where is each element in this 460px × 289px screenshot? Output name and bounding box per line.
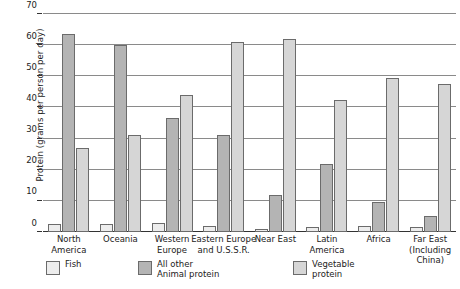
bar (203, 226, 216, 232)
bar (217, 135, 230, 232)
bar-group (301, 14, 353, 232)
y-tick-mark-70 (37, 13, 42, 14)
protein-sources-bar-chart: Protein (grams per person per day) 01020… (0, 0, 460, 289)
legend-label: Vegetable protein (312, 260, 355, 279)
bar-group (353, 14, 405, 232)
bar (100, 224, 113, 232)
legend-swatch-animal (138, 261, 152, 275)
y-tick-mark-10 (37, 200, 42, 201)
bar (424, 216, 437, 232)
chart-legend: FishAll other Animal proteinVegetable pr… (43, 260, 456, 288)
bar (114, 45, 127, 232)
bar (283, 39, 296, 232)
y-tick-label-20: 20 (26, 155, 37, 165)
y-tick-label-0: 0 (32, 218, 37, 228)
x-axis-label-line: and U.S.S.R. (187, 245, 261, 256)
bar (48, 224, 61, 232)
y-tick-mark-60 (37, 44, 42, 45)
x-axis-label-line: (Including (393, 245, 460, 256)
y-tick-label-70: 70 (26, 0, 37, 10)
bar (269, 195, 282, 232)
bar-group (146, 14, 198, 232)
plot-area: 010203040506070 (43, 14, 456, 232)
y-tick-mark-20 (37, 169, 42, 170)
bar (62, 34, 75, 232)
bar (166, 118, 179, 232)
bar (128, 135, 141, 232)
y-tick-mark-40 (37, 106, 42, 107)
legend-item: Fish (46, 260, 81, 275)
bar (306, 227, 319, 232)
y-tick-label-10: 10 (26, 186, 37, 196)
bar (152, 223, 165, 232)
x-axis-label-line: America (290, 245, 364, 256)
y-tick-label-50: 50 (26, 62, 37, 72)
y-tick-label-30: 30 (26, 124, 37, 134)
bar-group (43, 14, 95, 232)
bar (320, 164, 333, 233)
legend-swatch-vegetable (293, 261, 307, 275)
bar-group (404, 14, 456, 232)
legend-label: Fish (65, 260, 81, 270)
y-tick-mark-30 (37, 138, 42, 139)
bar (231, 42, 244, 232)
bar (76, 148, 89, 232)
bar-group (95, 14, 147, 232)
bar (386, 78, 399, 232)
bar (255, 229, 268, 232)
legend-item: All other Animal protein (138, 260, 219, 279)
bar (180, 95, 193, 232)
bar (334, 100, 347, 232)
y-tick-mark-0 (37, 231, 42, 232)
y-tick-label-60: 60 (26, 31, 37, 41)
bar (358, 226, 371, 232)
bar (372, 202, 385, 232)
legend-swatch-fish (46, 261, 60, 275)
x-axis-label-line: Far East (393, 234, 460, 245)
y-tick-label-40: 40 (26, 93, 37, 103)
bar-group (250, 14, 302, 232)
legend-item: Vegetable protein (293, 260, 355, 279)
bar-group (198, 14, 250, 232)
x-axis-label-line: America (32, 245, 106, 256)
bar (410, 227, 423, 232)
legend-label: All other Animal protein (157, 260, 219, 279)
y-tick-mark-50 (37, 75, 42, 76)
bar (438, 84, 451, 232)
